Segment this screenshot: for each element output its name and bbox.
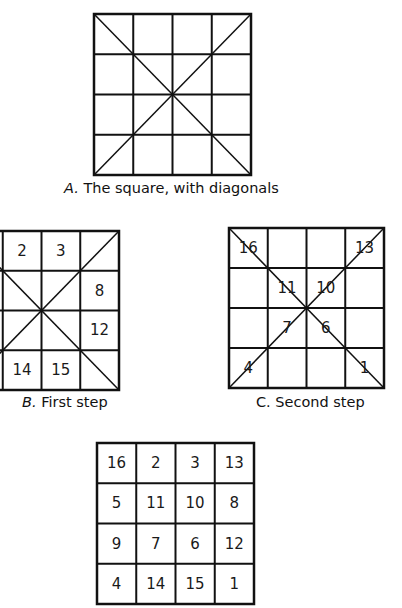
cell: 9 bbox=[97, 524, 136, 564]
cell: 7 bbox=[268, 308, 307, 348]
cell: 6 bbox=[307, 308, 346, 348]
cell: 2 bbox=[136, 443, 175, 483]
cell: 12 bbox=[215, 524, 254, 564]
cell: 15 bbox=[176, 564, 215, 604]
cell bbox=[229, 268, 268, 308]
cell: 14 bbox=[3, 350, 42, 390]
cell bbox=[307, 348, 346, 388]
cell: 11 bbox=[268, 268, 307, 308]
cell: 13 bbox=[215, 443, 254, 483]
caption-b: B. First step bbox=[22, 394, 108, 410]
square-b-first-step: 2 3 8 12 14 15 bbox=[0, 231, 119, 390]
caption-a-letter: A. bbox=[64, 180, 79, 196]
caption-c-text: Second step bbox=[271, 394, 365, 410]
grid-with-diagonals-icon bbox=[94, 14, 251, 175]
cell bbox=[268, 228, 307, 268]
square-a-diagonals bbox=[94, 14, 251, 175]
cell: 3 bbox=[176, 443, 215, 483]
cell: 13 bbox=[345, 228, 384, 268]
cell bbox=[42, 311, 81, 351]
cell: 2 bbox=[3, 231, 42, 271]
cell bbox=[229, 308, 268, 348]
cell bbox=[345, 308, 384, 348]
caption-b-letter: B. bbox=[22, 394, 37, 410]
cell: 5 bbox=[97, 483, 136, 523]
cell bbox=[80, 350, 119, 390]
cell bbox=[3, 311, 42, 351]
cell: 7 bbox=[136, 524, 175, 564]
square-c-second-step: 16 13 11 10 7 6 4 1 bbox=[229, 228, 384, 388]
cell: 1 bbox=[215, 564, 254, 604]
cell: 10 bbox=[176, 483, 215, 523]
cell bbox=[268, 348, 307, 388]
cell: 4 bbox=[229, 348, 268, 388]
cell: 8 bbox=[215, 483, 254, 523]
caption-a: A. The square, with diagonals bbox=[64, 180, 279, 196]
cell bbox=[307, 228, 346, 268]
caption-c-letter: C. bbox=[256, 394, 271, 410]
cell: 11 bbox=[136, 483, 175, 523]
cell: 8 bbox=[80, 271, 119, 311]
cell: 10 bbox=[307, 268, 346, 308]
cell: 4 bbox=[97, 564, 136, 604]
cell: 6 bbox=[176, 524, 215, 564]
square-d-magic-square: 16 2 3 13 5 11 10 8 9 7 6 12 4 14 15 1 bbox=[97, 443, 254, 604]
cell bbox=[80, 231, 119, 271]
square-b-cells: 2 3 8 12 14 15 bbox=[0, 231, 119, 390]
cell bbox=[345, 268, 384, 308]
caption-c: C. Second step bbox=[256, 394, 365, 410]
cell: 16 bbox=[229, 228, 268, 268]
cell bbox=[3, 271, 42, 311]
cell: 14 bbox=[136, 564, 175, 604]
square-d-cells: 16 2 3 13 5 11 10 8 9 7 6 12 4 14 15 1 bbox=[97, 443, 254, 604]
cell: 16 bbox=[97, 443, 136, 483]
cell: 1 bbox=[345, 348, 384, 388]
cell: 12 bbox=[80, 311, 119, 351]
cell: 15 bbox=[42, 350, 81, 390]
caption-b-text: First step bbox=[37, 394, 108, 410]
cell: 3 bbox=[42, 231, 81, 271]
square-c-cells: 16 13 11 10 7 6 4 1 bbox=[229, 228, 384, 388]
caption-a-text: The square, with diagonals bbox=[79, 180, 279, 196]
cell bbox=[42, 271, 81, 311]
